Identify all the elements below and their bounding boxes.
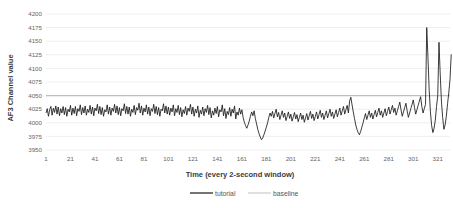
- x-tick-label: 221: [310, 155, 321, 162]
- x-tick-label: 121: [188, 155, 199, 162]
- legend-label-baseline: baseline: [273, 190, 299, 197]
- x-tick-label: 261: [359, 155, 370, 162]
- chart-svg: 3950397540004025405040754100412541504175…: [0, 0, 453, 208]
- x-axis-title: Time (every 2-second window): [186, 170, 295, 179]
- x-tick-label: 1: [44, 155, 48, 162]
- y-tick-label: 4000: [28, 119, 42, 126]
- x-tick-label: 21: [67, 155, 74, 162]
- y-tick-label: 4175: [28, 24, 42, 31]
- y-tick-label: 4050: [28, 92, 42, 99]
- x-tick-label: 181: [261, 155, 272, 162]
- x-tick-label: 141: [212, 155, 223, 162]
- y-tick-label: 3975: [28, 133, 42, 140]
- y-axis-tick-labels: 3950397540004025405040754100412541504175…: [28, 10, 42, 153]
- legend: tutorial baseline: [190, 190, 299, 197]
- x-tick-label: 161: [237, 155, 248, 162]
- gridlines: [46, 14, 450, 150]
- y-axis-title: AF3 Channel value: [6, 54, 15, 121]
- x-tick-label: 241: [335, 155, 346, 162]
- x-tick-label: 281: [384, 155, 395, 162]
- x-tick-label: 41: [92, 155, 99, 162]
- y-tick-label: 4150: [28, 37, 42, 44]
- x-tick-label: 101: [163, 155, 174, 162]
- chart-container: 3950397540004025405040754100412541504175…: [0, 0, 453, 208]
- y-tick-label: 4025: [28, 105, 42, 112]
- y-tick-label: 4125: [28, 51, 42, 58]
- x-tick-label: 61: [116, 155, 123, 162]
- x-tick-label: 201: [286, 155, 297, 162]
- x-tick-label: 301: [408, 155, 419, 162]
- x-axis-tick-labels: 1214161811011211411611812012212412612813…: [44, 155, 443, 162]
- x-tick-label: 321: [433, 155, 444, 162]
- y-tick-label: 3950: [28, 146, 42, 153]
- legend-label-tutorial: tutorial: [215, 190, 236, 197]
- y-tick-label: 4200: [28, 10, 42, 17]
- x-tick-label: 81: [140, 155, 147, 162]
- y-tick-label: 4100: [28, 65, 42, 72]
- y-tick-label: 4075: [28, 78, 42, 85]
